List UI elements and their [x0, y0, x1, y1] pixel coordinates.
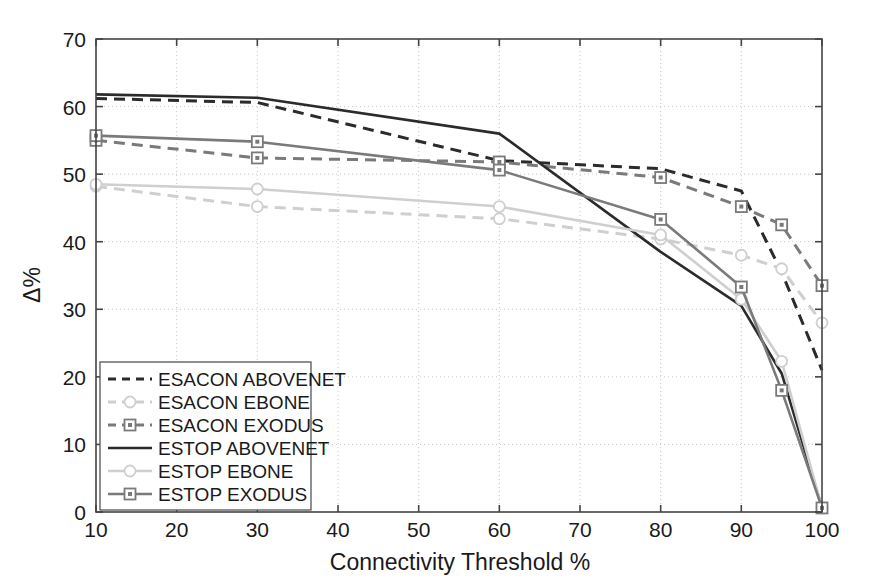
legend-label: ESTOP ABOVENET [158, 438, 330, 459]
x-tick-label: 50 [407, 518, 430, 541]
y-tick-label: 50 [63, 163, 86, 186]
chart-legend[interactable]: ESACON ABOVENETESACON EBONEESACON EXODUS… [100, 362, 346, 510]
x-tick-label: 40 [326, 518, 349, 541]
x-tick-label: 100 [804, 518, 839, 541]
x-tick-label: 10 [84, 518, 107, 541]
y-tick-label: 20 [63, 366, 86, 389]
x-tick-label: 80 [649, 518, 672, 541]
line-chart: 010203040506070102030405060708090100 ESA… [0, 0, 874, 583]
x-tick-label: 60 [488, 518, 511, 541]
x-axis-title: Connectivity Threshold % [330, 549, 590, 575]
legend-label: ESACON EXODUS [158, 415, 324, 436]
y-tick-label: 60 [63, 96, 86, 119]
legend-label: ESTOP EBONE [158, 461, 294, 482]
x-tick-label: 90 [730, 518, 753, 541]
y-tick-label: 10 [63, 433, 86, 456]
y-tick-label: 40 [63, 231, 86, 254]
x-tick-label: 20 [165, 518, 188, 541]
y-axis-title: Δ% [19, 267, 45, 303]
legend-label: ESTOP EXODUS [158, 484, 307, 505]
legend-label: ESACON EBONE [158, 392, 310, 413]
y-tick-label: 30 [63, 298, 86, 321]
legend-label: ESACON ABOVENET [158, 369, 346, 390]
x-tick-label: 30 [246, 518, 269, 541]
x-tick-label: 70 [568, 518, 591, 541]
figure-canvas: 010203040506070102030405060708090100 ESA… [0, 0, 874, 583]
y-tick-label: 70 [63, 28, 86, 51]
